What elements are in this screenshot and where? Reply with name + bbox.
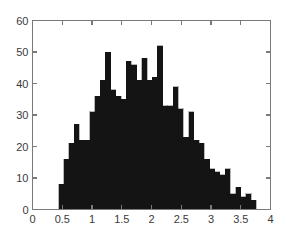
histogram-bar bbox=[251, 200, 256, 209]
histogram-figure: 00.511.522.533.54 0102030405060 bbox=[0, 0, 285, 233]
y-axis-tick-labels: 0102030405060 bbox=[16, 15, 28, 216]
histogram-bar bbox=[246, 194, 251, 210]
histogram-bar bbox=[131, 65, 136, 210]
histogram-bar bbox=[199, 143, 204, 209]
histogram-bar bbox=[69, 143, 74, 209]
histogram-bar bbox=[189, 112, 194, 210]
y-tick-label: 50 bbox=[16, 46, 28, 58]
histogram-bar bbox=[100, 80, 105, 209]
y-tick-label: 30 bbox=[16, 109, 28, 121]
histogram-bar bbox=[168, 106, 173, 210]
x-tick-label: 1 bbox=[89, 213, 95, 225]
histogram-bar bbox=[152, 77, 157, 209]
x-tick-label: 3 bbox=[208, 213, 214, 225]
histogram-bar bbox=[121, 99, 126, 209]
x-tick-label: 0 bbox=[29, 213, 35, 225]
histogram-bar bbox=[183, 137, 188, 209]
histogram-bar bbox=[236, 187, 241, 209]
x-axis-tick-labels: 00.511.522.533.54 bbox=[29, 213, 273, 225]
histogram-bar bbox=[90, 112, 95, 210]
histogram-bar bbox=[59, 184, 64, 209]
histogram-bar bbox=[105, 52, 110, 210]
histogram-bar bbox=[241, 197, 246, 210]
histogram-bar bbox=[147, 80, 152, 209]
histogram-bar bbox=[85, 140, 90, 209]
histogram-bar bbox=[230, 194, 235, 210]
histogram-bar bbox=[137, 80, 142, 209]
histogram-bar bbox=[79, 140, 84, 209]
histogram-bar bbox=[194, 140, 199, 209]
histogram-bar bbox=[126, 61, 131, 209]
y-tick-label: 20 bbox=[16, 141, 28, 153]
histogram-bar bbox=[74, 124, 79, 209]
histogram-bar bbox=[173, 87, 178, 210]
histogram-bar bbox=[111, 90, 116, 210]
histogram-bar bbox=[220, 175, 225, 210]
y-tick-label: 60 bbox=[16, 15, 28, 27]
y-tick-label: 40 bbox=[16, 78, 28, 90]
histogram-bar bbox=[95, 96, 100, 209]
x-tick-label: 0.5 bbox=[55, 213, 70, 225]
histogram-bar bbox=[163, 106, 168, 210]
histogram-bar bbox=[142, 58, 147, 209]
histogram-bars bbox=[59, 46, 257, 210]
y-tick-label: 10 bbox=[16, 172, 28, 184]
y-tick-label: 0 bbox=[22, 204, 28, 216]
x-tick-label: 4 bbox=[267, 213, 273, 225]
histogram-bar bbox=[204, 159, 209, 209]
histogram-bar bbox=[215, 172, 220, 210]
x-tick-label: 1.5 bbox=[114, 213, 129, 225]
histogram-plot: 00.511.522.533.54 0102030405060 bbox=[0, 0, 285, 233]
histogram-bar bbox=[64, 159, 69, 209]
histogram-bar bbox=[210, 169, 215, 210]
x-tick-label: 3.5 bbox=[233, 213, 248, 225]
x-tick-label: 2 bbox=[148, 213, 154, 225]
histogram-bar bbox=[116, 96, 121, 209]
histogram-bar bbox=[178, 109, 183, 210]
histogram-bar bbox=[157, 46, 162, 210]
histogram-bar bbox=[225, 169, 230, 210]
x-tick-label: 2.5 bbox=[174, 213, 189, 225]
